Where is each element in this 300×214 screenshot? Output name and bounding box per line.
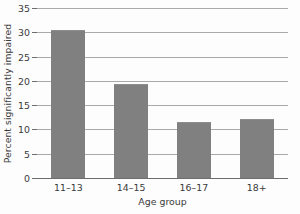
x-axis-tick-label: 18+ [247, 182, 267, 193]
x-axis-baseline [37, 178, 288, 179]
y-axis-tick-mark [32, 129, 37, 130]
y-axis-tick-label: 30 [18, 27, 30, 38]
y-axis-tick-mark [32, 154, 37, 155]
y-axis-tick-label: 35 [18, 3, 30, 14]
bar [240, 119, 274, 178]
y-axis-tick-label: 0 [24, 173, 30, 184]
bar [177, 122, 211, 178]
x-axis-tick-label: 14–15 [117, 182, 146, 193]
y-axis-tick-label: 5 [24, 148, 30, 159]
y-axis-tick-mark [32, 81, 37, 82]
bar [51, 30, 85, 178]
bar [114, 84, 148, 178]
y-axis-tick-mark [32, 32, 37, 33]
y-axis-tick-label: 15 [18, 100, 30, 111]
y-axis-tick-mark [32, 178, 37, 179]
y-axis-title-label: Percent significantly impaired [3, 23, 14, 162]
y-axis-title: Percent significantly impaired [0, 0, 16, 186]
y-axis-tick-mark [32, 105, 37, 106]
plot-area: 05101520253035 [37, 8, 288, 178]
y-axis-tick-label: 10 [18, 124, 30, 135]
x-axis-tick-label: 16–17 [180, 182, 209, 193]
y-axis-tick-label: 20 [18, 75, 30, 86]
x-axis-tick-label: 11–13 [54, 182, 83, 193]
gridline [37, 8, 288, 9]
x-axis-title: Age group [37, 196, 288, 207]
y-axis-tick-label: 25 [18, 51, 30, 62]
y-axis-tick-mark [32, 57, 37, 58]
y-axis-tick-mark [32, 8, 37, 9]
bar-chart: Percent significantly impaired 051015202… [0, 0, 300, 214]
